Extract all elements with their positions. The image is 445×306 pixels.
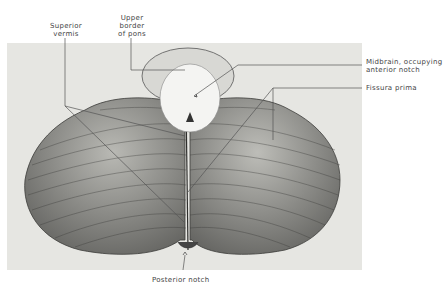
label-line: Upper [112, 14, 152, 22]
label-upper-border-of-pons: Upper border of pons [112, 14, 152, 38]
label-superior-vermis: Superior vermis [42, 22, 90, 38]
label-posterior-notch: Posterior notch [152, 276, 209, 284]
label-line: border [112, 22, 152, 30]
label-line: vermis [42, 30, 90, 38]
label-midbrain: Midbrain, occupying anterior notch [366, 58, 442, 74]
cerebellum-figure [0, 0, 445, 306]
label-line: Superior [42, 22, 90, 30]
label-fissura-prima: Fissura prima [366, 84, 417, 92]
label-line: Midbrain, occupying [366, 58, 442, 66]
label-line: of pons [112, 30, 152, 38]
label-line: anterior notch [366, 66, 442, 74]
